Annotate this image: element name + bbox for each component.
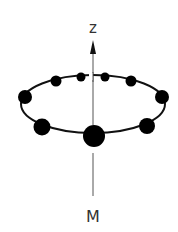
magnetic-moment-diagram: z M — [0, 0, 178, 232]
dot-front-right — [139, 118, 155, 134]
dot-back-right — [101, 73, 110, 82]
arrowhead-icon — [90, 40, 96, 54]
dot-back-left — [77, 73, 86, 82]
ring-gap — [89, 73, 93, 80]
dot-front-left — [34, 119, 51, 136]
z-axis-label: z — [89, 19, 97, 37]
z-axis-arrow — [90, 40, 96, 125]
dot-front-center — [83, 125, 105, 147]
dot-side-left — [18, 90, 32, 104]
moment-label: M — [86, 207, 100, 226]
dot-upper-left — [51, 76, 62, 87]
dot-side-right — [155, 90, 169, 104]
dot-upper-right — [126, 76, 137, 87]
